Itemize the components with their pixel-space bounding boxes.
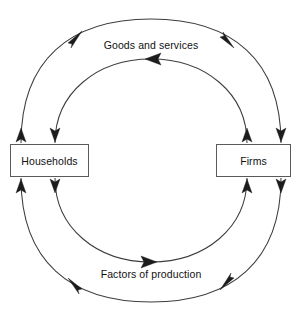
entity-label-firms: Firms (240, 155, 267, 167)
outer-bottom-left-arrowhead (68, 278, 82, 294)
inner-firms-bottom-arrowhead (242, 179, 252, 193)
inner-top-path (55, 59, 247, 143)
entity-box-firms[interactable]: Firms (216, 144, 291, 177)
flow-label-goods-and-services: Goods and services (0, 39, 302, 51)
outer-top-path (21, 19, 281, 143)
inner-bottom-path (55, 178, 247, 262)
flow-label-factors-of-production: Factors of production (0, 268, 302, 280)
entity-box-households[interactable]: Households (10, 144, 89, 177)
outer-bottom-path (21, 178, 281, 302)
circular-flow-diagram: Households Firms Goods and services Fact… (0, 0, 302, 321)
entity-label-households: Households (21, 155, 77, 167)
inner-households-top-arrowhead (50, 128, 60, 142)
